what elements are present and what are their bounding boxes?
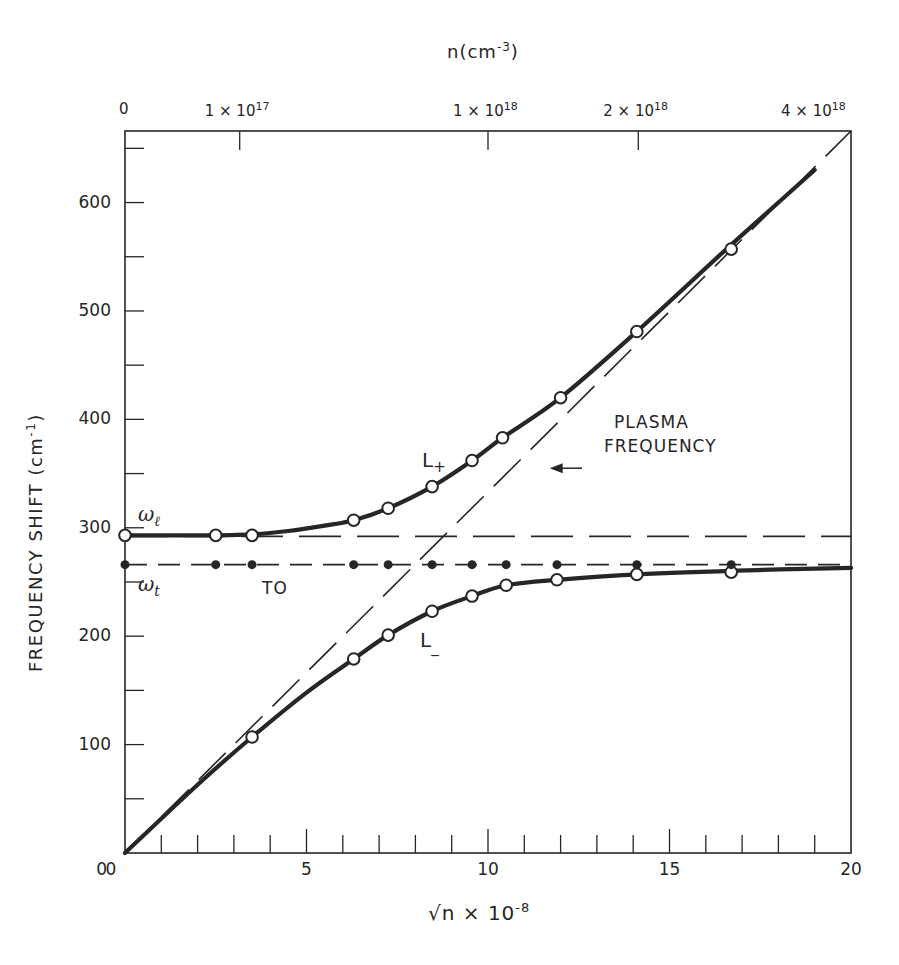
y-tick-label: 300 xyxy=(61,517,111,537)
x-tick-label: 20 xyxy=(831,859,871,879)
l-curve xyxy=(125,568,851,853)
x-tick-label: 0 xyxy=(91,859,131,879)
to-data-point xyxy=(468,560,477,569)
l-data-point xyxy=(210,530,222,542)
y-tick-label: 100 xyxy=(61,734,111,754)
x-axis-title: √n × 10-8 xyxy=(428,900,530,925)
to-data-point xyxy=(632,560,641,569)
plasma-arrow-head xyxy=(550,463,563,473)
l-data-point xyxy=(497,432,509,444)
plasma-label-line2: FREQUENCY xyxy=(604,434,717,458)
top-axis-tick-label: 1 × 1017 xyxy=(205,100,270,120)
omega-l-symbol: ω xyxy=(138,502,154,526)
x-axis-title-root: √n xyxy=(428,901,455,925)
y-tick-label: 600 xyxy=(61,192,111,212)
x-tick-label: 5 xyxy=(287,859,327,879)
l-data-point xyxy=(631,326,643,338)
l-data-point xyxy=(119,530,131,542)
x-axis-title-exp: -8 xyxy=(515,900,530,915)
top-axis-tick-label-exponent: 17 xyxy=(255,100,269,113)
l-data-point xyxy=(631,569,643,581)
top-axis-tick-label-mantissa: 1 × 10 xyxy=(453,102,504,120)
top-axis-tick-label-mantissa: 2 × 10 xyxy=(603,102,654,120)
to-data-point xyxy=(248,560,257,569)
l-plus-letter: L xyxy=(422,448,433,472)
l-data-point xyxy=(551,574,563,586)
top-axis-tick-label-mantissa: 1 × 10 xyxy=(205,102,256,120)
to-data-point xyxy=(727,560,736,569)
top-axis-tick-label-exponent: 18 xyxy=(504,100,518,113)
omega-t-symbol: ω xyxy=(138,572,154,596)
y-axis-title-exp: -1 xyxy=(24,422,38,437)
x-tick-label: 15 xyxy=(650,859,690,879)
l-data-point xyxy=(348,653,360,665)
y-axis-title-close: ) xyxy=(25,413,46,422)
y-tick-label: 200 xyxy=(61,625,111,645)
y-axis-title-text: FREQUENCY SHIFT (cm xyxy=(25,437,46,672)
omega-l-subscript: ℓ xyxy=(154,513,160,529)
axis-ticks xyxy=(125,131,815,853)
x-tick-label: 10 xyxy=(468,859,508,879)
top-axis-tick-label: 0 xyxy=(119,100,129,118)
l-curve xyxy=(125,170,815,535)
plasma-frequency-label: PLASMA FREQUENCY xyxy=(604,410,717,458)
l-data-point xyxy=(466,455,478,467)
y-tick-label: 400 xyxy=(61,408,111,428)
plot-border xyxy=(125,131,851,853)
l-data-point xyxy=(555,392,567,404)
l-data-point xyxy=(426,605,438,617)
l-data-point xyxy=(426,481,438,493)
omega-t-subscript: t xyxy=(154,583,160,599)
l-data-point xyxy=(466,590,478,602)
to-label: TO xyxy=(262,578,288,598)
chart-canvas xyxy=(0,0,899,965)
to-data-point xyxy=(349,560,358,569)
top-axis-title-exp: -3 xyxy=(497,40,511,54)
to-data-point xyxy=(502,560,511,569)
l-data-point xyxy=(725,243,737,255)
y-tick-label: 500 xyxy=(61,300,111,320)
top-axis-title-close: ) xyxy=(511,41,519,62)
l-data-point xyxy=(246,530,258,542)
plot-frame xyxy=(125,131,851,853)
to-data-point xyxy=(211,560,220,569)
l-minus-subscript: _ xyxy=(431,638,439,656)
top-axis-title-text: n(cm xyxy=(447,41,497,62)
l-minus-label: L_ xyxy=(420,628,439,656)
top-axis-tick-label: 1 × 1018 xyxy=(453,100,518,120)
top-axis-tick-label-exponent: 18 xyxy=(832,100,846,113)
l-data-point xyxy=(500,579,512,591)
series-layer xyxy=(125,131,851,853)
l-data-point xyxy=(348,514,360,526)
omega-t-label: ωt xyxy=(138,572,160,599)
y-axis-title: FREQUENCY SHIFT (cm-1) xyxy=(24,413,46,672)
l-plus-subscript: + xyxy=(433,458,446,476)
x-axis-title-times: × 10 xyxy=(455,901,515,925)
to-data-point xyxy=(552,560,561,569)
l-data-point xyxy=(382,502,394,514)
top-axis-tick-label: 4 × 1018 xyxy=(781,100,846,120)
top-axis-tick-label: 2 × 1018 xyxy=(603,100,668,120)
data-markers xyxy=(119,243,737,742)
to-data-point xyxy=(384,560,393,569)
plasma-frequency-line xyxy=(125,131,851,853)
l-plus-label: L+ xyxy=(422,448,446,476)
l-data-point xyxy=(382,629,394,641)
plasma-label-line1: PLASMA xyxy=(604,410,717,434)
top-axis-tick-label-exponent: 18 xyxy=(654,100,668,113)
top-axis-title: n(cm-3) xyxy=(447,40,519,62)
l-data-point xyxy=(246,731,258,743)
l-minus-letter: L xyxy=(420,628,431,652)
omega-l-label: ωℓ xyxy=(138,502,160,530)
to-data-point xyxy=(428,560,437,569)
top-axis-tick-label-mantissa: 4 × 10 xyxy=(781,102,832,120)
to-data-point xyxy=(121,560,130,569)
